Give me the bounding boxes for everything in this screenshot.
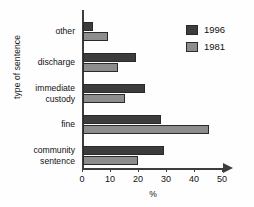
x-axis-tick bbox=[138, 168, 139, 172]
legend-swatch bbox=[186, 42, 198, 52]
legend-label: 1981 bbox=[204, 41, 225, 52]
legend-item: 1996 bbox=[186, 22, 250, 37]
bar bbox=[83, 63, 118, 72]
x-axis-tick bbox=[82, 168, 83, 172]
bar bbox=[83, 53, 136, 62]
bar bbox=[83, 115, 161, 124]
legend-label: 1996 bbox=[204, 24, 225, 35]
legend-swatch bbox=[186, 25, 198, 35]
bar-chart: type of sentence otherdischargeimmediate… bbox=[0, 0, 254, 207]
bar bbox=[83, 32, 108, 41]
category-label: community sentence bbox=[0, 145, 75, 166]
x-axis-tick-label: 10 bbox=[99, 174, 121, 184]
x-axis-tick-label: 40 bbox=[183, 174, 205, 184]
x-axis-tick bbox=[110, 168, 111, 172]
category-label-group: otherdischargeimmediate custodyfinecommu… bbox=[0, 10, 78, 168]
x-axis-tick bbox=[166, 168, 167, 172]
x-axis-tick-label: 0 bbox=[71, 174, 93, 184]
x-axis-tick bbox=[222, 168, 223, 172]
bar bbox=[83, 22, 93, 31]
x-axis-tick-label: 20 bbox=[127, 174, 149, 184]
x-axis-line bbox=[82, 168, 224, 170]
category-label: fine bbox=[0, 119, 75, 130]
bar bbox=[83, 156, 138, 165]
x-axis-tick-label: 50 bbox=[211, 174, 233, 184]
x-axis-title: % bbox=[82, 189, 224, 199]
x-axis-tick bbox=[194, 168, 195, 172]
bar bbox=[83, 146, 164, 155]
legend-item: 1981 bbox=[186, 39, 250, 54]
bar bbox=[83, 84, 145, 93]
x-axis-tick-label: 30 bbox=[155, 174, 177, 184]
category-label: discharge bbox=[0, 57, 75, 68]
bar bbox=[83, 94, 125, 103]
category-label: immediate custody bbox=[0, 83, 75, 104]
x-axis-arrow-icon bbox=[223, 163, 233, 173]
bar bbox=[83, 125, 209, 134]
legend: 19961981 bbox=[186, 22, 250, 56]
category-label: other bbox=[0, 26, 75, 37]
